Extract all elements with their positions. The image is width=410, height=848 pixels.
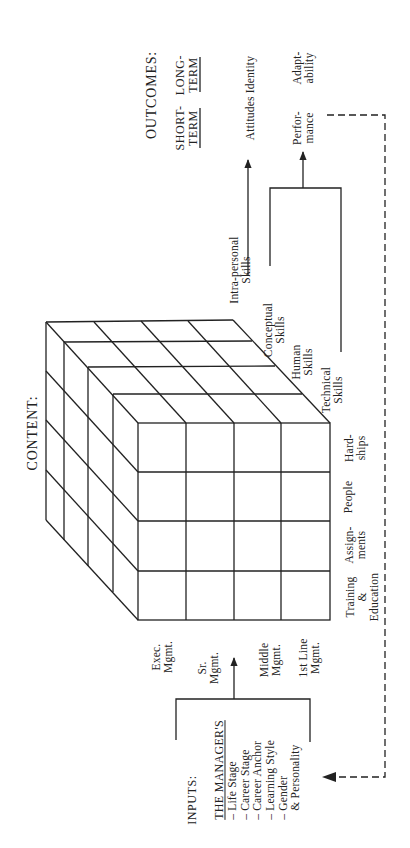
skill-label-line1: Conceptual — [262, 303, 274, 357]
attitudes-identity-label: Attitudes Identity — [244, 56, 256, 140]
level-label-line2: Mgmt. — [162, 641, 174, 673]
method-label-line2: ments — [355, 526, 367, 563]
skill-human: Human Skills — [290, 345, 314, 380]
adaptability-label: Adapt- ability — [291, 51, 315, 84]
level-label-line1: Sr. — [196, 652, 208, 684]
skill-label-line2: Skills — [332, 367, 344, 413]
method-label-line1: Hard- — [343, 434, 355, 462]
content-title: CONTENT: — [26, 396, 41, 471]
performance-line1: Perfor- — [291, 111, 303, 145]
inputs-title: INPUTS: — [186, 775, 199, 825]
skill-label-line2: Skills — [274, 303, 286, 357]
input-item: – Learning Style — [265, 720, 278, 820]
long-term-line2: TERM — [187, 55, 200, 95]
adaptability-line1: Adapt- — [291, 51, 303, 84]
inputs-list: THE MANAGER'S – Life Stage – Career Stag… — [213, 720, 302, 820]
level-label-line2: Mgmt. — [208, 652, 220, 684]
diagram-lines — [0, 0, 410, 848]
method-label-line1: Training — [344, 573, 356, 621]
method-people: People — [342, 481, 354, 514]
cube — [46, 320, 330, 620]
level-exec: Exec. Mgmt. — [150, 641, 174, 673]
outcomes-title: OUTCOMES: — [145, 51, 160, 139]
input-item: & Personality — [290, 720, 303, 820]
adaptability-line2: ability — [303, 51, 315, 84]
method-label-line1: Assign- — [343, 526, 355, 563]
skill-conceptual: Conceptual Skills — [262, 303, 286, 357]
long-term-label: LONG- TERM — [174, 55, 199, 95]
method-label-line2: & — [356, 573, 368, 621]
skill-label-line1: Intra-personal — [228, 236, 240, 303]
input-item: – Career Stage — [239, 720, 252, 820]
inputs-subtitle: THE MANAGER'S — [213, 720, 226, 820]
level-senior: Sr. Mgmt. — [196, 652, 220, 684]
performance-label: Perfor- mance — [291, 111, 315, 145]
input-item: – Gender — [277, 720, 290, 820]
skill-intra-personal: Intra-personal Skills — [228, 236, 252, 303]
short-term-line1: SHORT- — [174, 105, 187, 150]
skill-label-line2: Skills — [302, 345, 314, 380]
input-item: – Life Stage — [227, 720, 240, 820]
method-hardships: Hard- ships — [343, 434, 367, 462]
short-term-label: SHORT- TERM — [174, 105, 199, 150]
long-term-line1: LONG- — [174, 55, 187, 95]
level-middle: Middle Mgmt. — [258, 643, 282, 677]
method-label-line3: Education — [368, 573, 380, 621]
performance-line2: mance — [303, 111, 315, 145]
skill-label-line1: Human — [290, 345, 302, 380]
level-label-line2: Mgmt. — [270, 643, 282, 677]
input-item: – Career Anchor — [252, 720, 265, 820]
method-label-line2: ships — [355, 434, 367, 462]
level-first-line: 1st Line Mgmt. — [297, 639, 321, 678]
short-term-line2: TERM — [187, 105, 200, 150]
skill-technical: Technical Skills — [320, 367, 344, 413]
feedback-arrowhead — [322, 772, 336, 782]
skill-label-line2: Skills — [240, 236, 252, 303]
level-label-line2: Mgmt. — [309, 639, 321, 678]
level-label-line1: Exec. — [150, 641, 162, 673]
skill-label-line1: Technical — [320, 367, 332, 413]
level-label-line1: 1st Line — [297, 639, 309, 678]
method-training-education: Training & Education — [344, 573, 380, 621]
method-assignments: Assign- ments — [343, 526, 367, 563]
level-label-line1: Middle — [258, 643, 270, 677]
